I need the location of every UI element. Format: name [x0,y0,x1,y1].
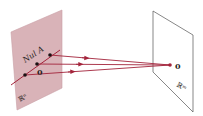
domain-zero-label: 0 [37,67,43,77]
null-point-2 [23,73,27,77]
codomain-zero-label: 0 [175,61,181,71]
codomain-plane [153,11,193,112]
null-point-1 [48,53,52,57]
domain-zero-point [35,62,39,66]
kernel-diagram: Nul A 0 ℝⁿ 0 ℝᵐ [0,0,203,116]
codomain-zero-point [168,63,172,67]
